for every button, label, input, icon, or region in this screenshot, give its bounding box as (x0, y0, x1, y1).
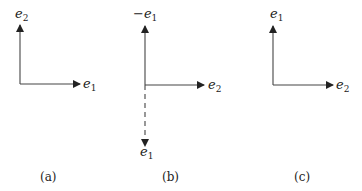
panel-c: e1 e2 (c) (270, 6, 349, 184)
panel-b: −e1 e2 e1 (b) (133, 6, 221, 184)
panel-a: e2 e1 (a) (15, 6, 96, 184)
caption-b: (b) (162, 170, 179, 184)
dashed-label: e1 (140, 144, 153, 161)
vertical-label: −e1 (133, 6, 157, 23)
caption-a: (a) (40, 170, 57, 184)
horizontal-label: e1 (83, 76, 96, 93)
vertical-label: e2 (15, 6, 28, 23)
vertical-label: e1 (270, 6, 283, 23)
horizontal-label: e2 (208, 77, 221, 94)
horizontal-label: e2 (336, 77, 349, 94)
caption-c: (c) (294, 170, 310, 184)
basis-vector-diagram: e2 e1 (a) −e1 e2 e1 (b) e1 e2 (c) (0, 0, 362, 191)
